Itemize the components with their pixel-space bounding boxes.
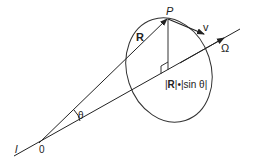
label-point-p: P — [166, 6, 173, 17]
diagram-canvas — [0, 0, 253, 166]
label-velocity: v — [203, 22, 209, 33]
perp-r: R — [168, 79, 175, 90]
label-angular-velocity: Ω — [221, 43, 229, 54]
label-radius-vector: R — [136, 32, 144, 43]
perp-suffix: |•|sin θ| — [175, 79, 207, 90]
rotation-diagram: P v R Ω θ 0 l |R|•|sin θ| — [0, 0, 253, 166]
label-origin: 0 — [39, 145, 45, 155]
label-perpendicular-distance: |R|•|sin θ| — [165, 80, 207, 90]
label-axis: l — [15, 144, 17, 155]
velocity-vector — [168, 19, 204, 34]
right-angle-marker — [161, 62, 168, 74]
label-angle: θ — [78, 111, 84, 121]
